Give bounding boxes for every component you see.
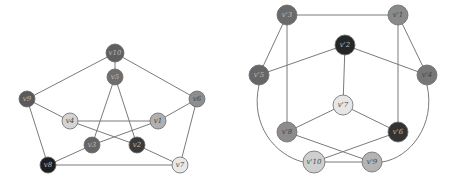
left-node-v7: v7 — [172, 157, 188, 173]
left-edge-v4-v2 — [70, 121, 137, 145]
left-node-v4: v4 — [62, 113, 78, 129]
right-node-v7p: v'7 — [333, 95, 353, 115]
left-node-v8: v8 — [40, 157, 56, 173]
right-curved-edge-v5p-v10p — [257, 85, 303, 162]
left-edge-v9-v8 — [27, 99, 48, 165]
petersen-graph-left: v10v5v9v6v4v1v3v2v8v7 — [19, 44, 205, 173]
node-label: v1 — [154, 117, 162, 125]
node-label: v'10 — [307, 158, 322, 166]
left-nodes: v10v5v9v6v4v1v3v2v8v7 — [19, 44, 205, 173]
node-label: v'6 — [393, 128, 404, 136]
node-label: v'4 — [422, 71, 432, 79]
left-node-v2: v2 — [129, 137, 145, 153]
left-edge-v5-v3 — [92, 77, 115, 145]
right-node-v5p: v'5 — [249, 65, 269, 85]
left-node-v10: v10 — [106, 44, 124, 62]
right-node-v6p: v'6 — [388, 122, 408, 142]
node-label: v5 — [111, 73, 120, 81]
node-label: v3 — [88, 141, 97, 149]
node-label: v'8 — [282, 128, 293, 136]
node-label: v'2 — [340, 41, 351, 49]
left-edge-v6-v7 — [180, 99, 197, 165]
right-edge-v2p-v5p — [259, 45, 345, 75]
right-edge-v6p-v10p — [314, 132, 398, 162]
isomorphic-graph-right: v'3v'1v'2v'5v'4v'7v'8v'6v'10v'9 — [249, 5, 437, 173]
node-label: v9 — [23, 95, 32, 103]
node-label: v10 — [109, 49, 122, 57]
right-node-v4p: v'4 — [417, 65, 437, 85]
left-node-v6: v6 — [189, 91, 205, 107]
left-edge-v1-v3 — [92, 121, 158, 145]
right-node-v9p: v'9 — [362, 152, 382, 172]
node-label: v'3 — [282, 11, 293, 19]
right-node-v10p: v'10 — [303, 151, 325, 173]
right-edge-v8p-v9p — [287, 132, 372, 162]
graph-diagram: v10v5v9v6v4v1v3v2v8v7 v'3v'1v'2v'5v'4v'7… — [0, 0, 451, 187]
node-label: v'5 — [254, 71, 265, 79]
left-edge-v10-v6 — [115, 53, 197, 99]
right-node-v1p: v'1 — [388, 5, 408, 25]
right-node-v8p: v'8 — [277, 122, 297, 142]
right-node-v2p: v'2 — [335, 35, 355, 55]
node-label: v'9 — [367, 158, 378, 166]
right-node-v3p: v'3 — [277, 5, 297, 25]
node-label: v2 — [133, 141, 142, 149]
node-label: v'1 — [393, 11, 403, 19]
left-edge-v10-v9 — [27, 53, 115, 99]
left-node-v9: v9 — [19, 91, 35, 107]
left-node-v5: v5 — [107, 69, 123, 85]
left-node-v3: v3 — [84, 137, 100, 153]
node-label: v'7 — [338, 101, 349, 109]
left-edge-v5-v2 — [115, 77, 137, 145]
node-label: v8 — [44, 161, 53, 169]
node-label: v6 — [193, 95, 202, 103]
right-curved-edge-v4p-v9p — [382, 85, 429, 162]
node-label: v7 — [176, 161, 185, 169]
node-label: v4 — [66, 117, 74, 125]
left-node-v1: v1 — [150, 113, 166, 129]
